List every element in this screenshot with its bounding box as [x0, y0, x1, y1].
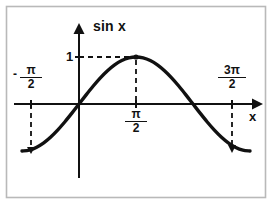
fraction-denominator: 2	[20, 77, 42, 91]
curve-maximum-dot	[133, 54, 138, 59]
fraction-numerator: π	[125, 108, 147, 121]
fraction-denominator: 2	[218, 77, 246, 91]
fraction-numerator: 3π	[218, 64, 246, 77]
sine-graph-figure: sin x x 1 - π 2 π 2 3π 2	[0, 0, 272, 204]
minus-sign: -	[13, 67, 17, 81]
fraction-denominator: 2	[125, 121, 147, 135]
x-tick-label-three-pi-over-2: 3π 2	[218, 64, 246, 90]
plot-canvas	[0, 0, 272, 204]
x-tick-label-neg-pi-over-2: - π 2	[20, 64, 42, 90]
y-axis-title: sin x	[93, 19, 126, 33]
x-tick-label-pi-over-2: π 2	[125, 108, 147, 134]
x-axis-title: x	[249, 110, 256, 123]
y-tick-label-one: 1	[66, 50, 73, 63]
fraction-numerator: π	[20, 64, 42, 77]
